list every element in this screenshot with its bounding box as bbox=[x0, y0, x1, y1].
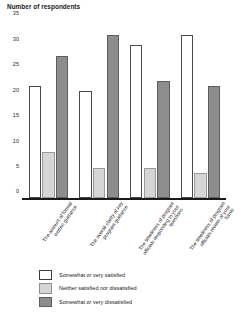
legend-label: Neither satisfied nor dissatisfied bbox=[59, 285, 137, 291]
y-axis-tick-label: 0 bbox=[16, 190, 19, 196]
plot-area: 05101520253035 bbox=[22, 20, 225, 198]
bar bbox=[79, 91, 91, 198]
legend-label: Somewhat or very dissatisfied bbox=[59, 299, 132, 305]
bar bbox=[29, 86, 41, 198]
x-axis-category-label: The timeliness of program officials revi… bbox=[186, 201, 235, 261]
bar-chart: Number of respondents 05101520253035 The… bbox=[0, 0, 243, 317]
bar bbox=[56, 56, 68, 198]
legend-swatch bbox=[39, 297, 52, 308]
y-axis-tick-label: 35 bbox=[13, 12, 19, 18]
x-axis-line bbox=[22, 198, 226, 200]
y-axis-tick-label: 25 bbox=[13, 62, 19, 68]
y-axis-tick-label: 30 bbox=[13, 37, 19, 43]
legend-item: Somewhat or very dissatisfied bbox=[39, 295, 214, 309]
bar bbox=[157, 81, 169, 198]
y-axis-tick-label: 10 bbox=[13, 139, 19, 145]
legend-item: Somewhat or very satisfied bbox=[39, 268, 214, 282]
bar bbox=[194, 173, 206, 198]
x-axis-category-label: The overall clarity of key program guida… bbox=[85, 201, 130, 258]
legend-swatch bbox=[39, 270, 52, 281]
y-axis-tick-label: 5 bbox=[16, 164, 19, 170]
y-axis-tick-label: 15 bbox=[13, 113, 19, 119]
bar bbox=[93, 168, 105, 199]
legend-swatch bbox=[39, 283, 52, 294]
bar bbox=[181, 35, 193, 198]
bar bbox=[130, 45, 142, 198]
chart-title: Number of respondents bbox=[7, 3, 80, 10]
x-axis-category-label: The timeliness of program officials resp… bbox=[135, 201, 184, 261]
y-axis-tick-label: 20 bbox=[13, 88, 19, 94]
bar bbox=[42, 152, 54, 198]
legend-item: Neither satisfied nor dissatisfied bbox=[39, 282, 214, 296]
legend-label: Somewhat or very satisfied bbox=[59, 272, 125, 278]
bar bbox=[107, 35, 119, 198]
x-axis-category-label: The amount of formal written guidance bbox=[34, 201, 79, 258]
chart-legend: Somewhat or very satisfiedNeither satisf… bbox=[39, 268, 214, 309]
bar bbox=[144, 168, 156, 199]
bar bbox=[208, 86, 220, 198]
